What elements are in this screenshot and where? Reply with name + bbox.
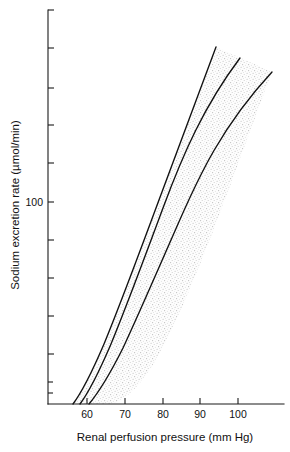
- y-axis-title: Sodium excretion rate (µmol/min): [9, 120, 21, 290]
- x-axis-title: Renal perfusion pressure (mm Hg): [77, 431, 254, 443]
- y-tick-label-100: 100: [25, 196, 43, 208]
- figure-container: 100 60 70 80 90 100 Renal perfusion pres…: [0, 0, 290, 452]
- band-fill-region: [73, 47, 272, 404]
- x-tick-label-60: 60: [81, 408, 93, 420]
- x-tick-label-70: 70: [119, 408, 131, 420]
- confidence-band: [73, 47, 272, 404]
- pressure-natriuresis-chart: 100 60 70 80 90 100 Renal perfusion pres…: [0, 0, 290, 452]
- x-tick-label-100: 100: [229, 408, 247, 420]
- y-axis-ticks: [48, 10, 54, 393]
- x-tick-label-90: 90: [194, 408, 206, 420]
- x-tick-label-80: 80: [157, 408, 169, 420]
